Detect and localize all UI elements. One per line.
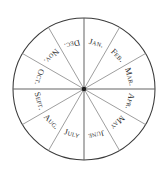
month-wheel-figure: Jan.Feb.Mar.Apr.MayJuneJulyAug.Sept.Oct.… (0, 0, 166, 177)
wheel-center-hub (82, 87, 87, 92)
month-wheel-chart: Jan.Feb.Mar.Apr.MayJuneJulyAug.Sept.Oct.… (0, 0, 166, 177)
